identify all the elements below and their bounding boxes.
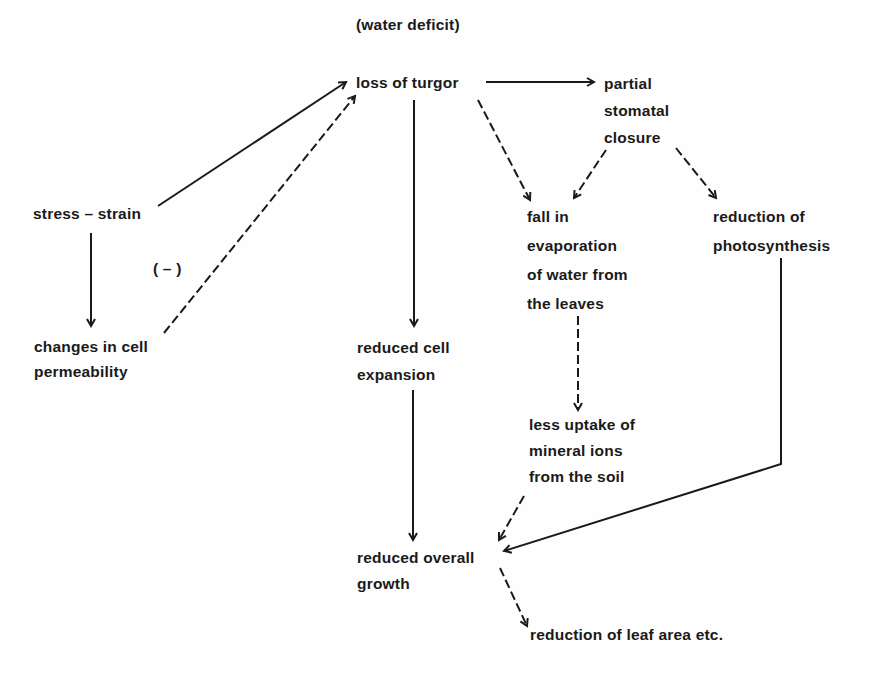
- node-line: stress – strain: [33, 201, 141, 226]
- node-line: reduction of leaf area etc.: [530, 622, 723, 647]
- node-line: reduced cell: [357, 334, 450, 361]
- node-line: changes in cell: [34, 334, 148, 359]
- node-line: reduced overall: [357, 545, 475, 571]
- node-line: mineral ions: [529, 438, 635, 464]
- node-line: reduction of: [713, 202, 830, 231]
- node-partial-stomatal-closure: partial stomatal closure: [604, 70, 669, 151]
- node-line: fall in: [527, 202, 628, 231]
- node-loss-of-turgor: loss of turgor: [356, 70, 459, 95]
- edge-stomatal-to-photosynthesis: [676, 148, 716, 198]
- edge-stress-to-turgor: [158, 82, 346, 206]
- node-line: from the soil: [529, 464, 635, 490]
- node-line: stomatal: [604, 97, 669, 124]
- node-line: the leaves: [527, 289, 628, 318]
- water-deficit-title: (water deficit): [356, 12, 460, 37]
- node-line: evaporation: [527, 231, 628, 260]
- node-line: less uptake of: [529, 412, 635, 438]
- node-line: of water from: [527, 260, 628, 289]
- node-line: loss of turgor: [356, 70, 459, 95]
- edge-stomatal-to-evaporation: [574, 150, 606, 198]
- node-reduction-of-leaf-area: reduction of leaf area etc.: [530, 622, 723, 647]
- title-text: (water deficit): [356, 12, 460, 37]
- node-line: closure: [604, 124, 669, 151]
- node-changes-in-cell-permeability: changes in cell permeability: [34, 334, 148, 384]
- node-fall-in-evaporation: fall in evaporation of water from the le…: [527, 202, 628, 318]
- node-line: partial: [604, 70, 669, 97]
- node-line: growth: [357, 571, 475, 597]
- node-stress-strain: stress – strain: [33, 201, 141, 226]
- edge-growth-to-leaf-area: [500, 568, 527, 626]
- node-line: permeability: [34, 359, 148, 384]
- node-reduced-cell-expansion: reduced cell expansion: [357, 334, 450, 388]
- node-line: ( – ): [153, 256, 182, 281]
- node-reduction-of-photosynthesis: reduction of photosynthesis: [713, 202, 830, 260]
- node-reduced-overall-growth: reduced overall growth: [357, 545, 475, 597]
- node-line: photosynthesis: [713, 231, 830, 260]
- edge-turgor-to-evaporation: [478, 100, 530, 200]
- negative-effect-label: ( – ): [153, 256, 182, 281]
- diagram-canvas: (water deficit) loss of turgor partial s…: [0, 0, 881, 683]
- edge-uptake-to-growth: [499, 496, 524, 540]
- node-less-uptake-of-mineral-ions: less uptake of mineral ions from the soi…: [529, 412, 635, 490]
- edge-permeability-to-turgor: [164, 96, 355, 333]
- node-line: expansion: [357, 361, 450, 388]
